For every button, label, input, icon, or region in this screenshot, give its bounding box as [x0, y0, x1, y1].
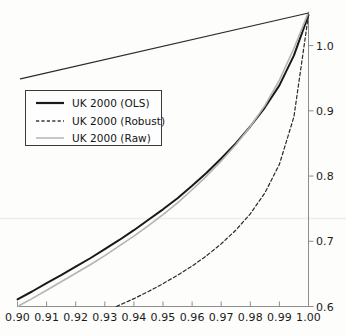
x-tick-label: 0.95 — [151, 311, 176, 324]
series-line-uk-2000-robust — [116, 15, 308, 307]
x-tick-label: 0.91 — [34, 311, 59, 324]
x-tick-label: 0.93 — [92, 311, 117, 324]
x-tick-label: 0.98 — [238, 311, 263, 324]
y-tick-label: 1.0 — [316, 39, 334, 52]
chart-legend: UK 2000 (OLS) UK 2000 (Robust) UK 2000 (… — [25, 90, 162, 146]
legend-item-robust: UK 2000 (Robust) — [26, 112, 161, 130]
x-axis-ticks — [18, 302, 309, 307]
legend-swatch-raw — [35, 132, 65, 144]
y-axis-ticks — [309, 46, 314, 307]
x-tick-label: 0.99 — [267, 311, 292, 324]
axes — [17, 13, 314, 307]
y-tick-label: 0.6 — [316, 300, 334, 313]
series-line-uk-2000-ols — [18, 15, 309, 299]
chart-figure: 0.900.910.920.930.940.950.960.970.980.99… — [0, 0, 346, 336]
legend-item-raw: UK 2000 (Raw) — [26, 129, 161, 147]
series-line-upper-envelope-line — [20, 13, 308, 79]
legend-item-ols: UK 2000 (OLS) — [26, 94, 161, 112]
y-tick-label: 0.8 — [316, 170, 334, 183]
legend-swatch-robust — [35, 115, 65, 127]
plot-area — [0, 0, 346, 336]
x-tick-label: 0.92 — [63, 311, 88, 324]
x-tick-label: 0.94 — [121, 311, 146, 324]
x-tick-label: 0.96 — [180, 311, 205, 324]
x-tick-label: 0.97 — [209, 311, 234, 324]
legend-label-robust: UK 2000 (Robust) — [72, 115, 165, 127]
x-tick-label: 0.90 — [5, 311, 30, 324]
y-tick-label: 0.7 — [316, 235, 334, 248]
y-tick-label: 0.9 — [316, 104, 334, 117]
legend-label-raw: UK 2000 (Raw) — [72, 132, 151, 144]
data-series-group — [18, 12, 309, 306]
legend-swatch-ols — [35, 97, 65, 109]
series-line-uk-2000-raw — [18, 12, 309, 306]
legend-label-ols: UK 2000 (OLS) — [72, 97, 150, 109]
